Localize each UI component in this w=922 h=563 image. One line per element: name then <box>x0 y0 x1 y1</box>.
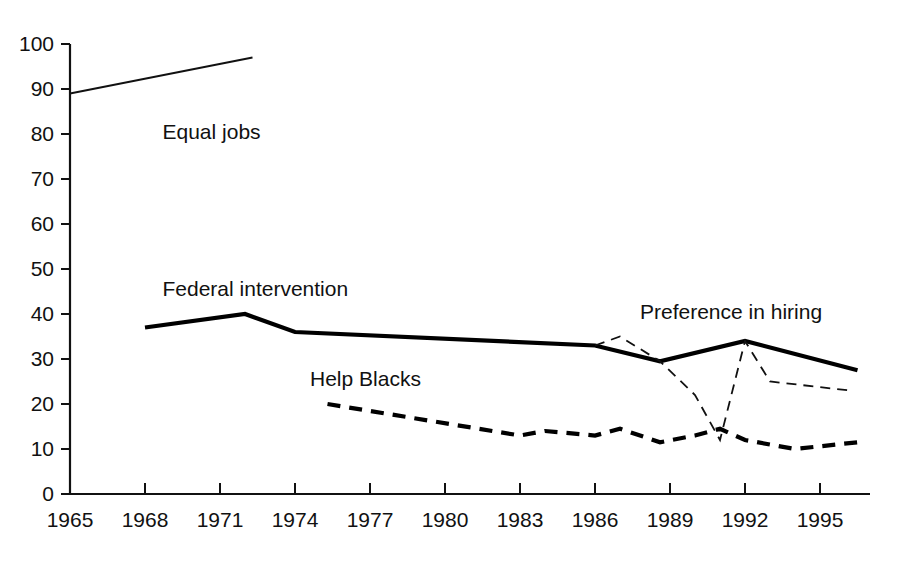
x-tick-label: 1995 <box>797 508 844 531</box>
chart-canvas: 0102030405060708090100 19651968197119741… <box>0 0 922 563</box>
y-tick-label: 50 <box>31 257 54 280</box>
series-label-federal-intervention: Federal intervention <box>163 277 349 300</box>
y-tick-label: 100 <box>19 32 54 55</box>
y-tick-label: 80 <box>31 122 54 145</box>
series-line-preference-in-hiring <box>595 337 850 441</box>
x-tick-label: 1983 <box>497 508 544 531</box>
x-axis: 1965196819711974197719801983198619891992… <box>47 483 870 531</box>
line-chart: 0102030405060708090100 19651968197119741… <box>0 0 922 563</box>
x-tick-label: 1986 <box>572 508 619 531</box>
series-line-help-blacks <box>328 404 858 449</box>
series-label-equal-jobs: Equal jobs <box>163 120 261 143</box>
x-tick-label: 1989 <box>647 508 694 531</box>
x-tick-label: 1965 <box>47 508 94 531</box>
x-tick-label: 1971 <box>197 508 244 531</box>
x-tick-label: 1977 <box>347 508 394 531</box>
y-tick-label: 70 <box>31 167 54 190</box>
x-tick-label: 1974 <box>272 508 319 531</box>
y-tick-label: 20 <box>31 392 54 415</box>
x-tick-label: 1968 <box>122 508 169 531</box>
y-tick-label: 60 <box>31 212 54 235</box>
y-tick-label: 40 <box>31 302 54 325</box>
x-tick-label: 1980 <box>422 508 469 531</box>
series-lines <box>70 58 858 450</box>
y-tick-label: 10 <box>31 437 54 460</box>
y-tick-label: 90 <box>31 77 54 100</box>
series-line-equal-jobs <box>70 58 253 94</box>
x-tick-label: 1992 <box>722 508 769 531</box>
series-label-preference-in-hiring: Preference in hiring <box>640 300 822 323</box>
y-axis: 0102030405060708090100 <box>19 32 70 505</box>
series-label-help-blacks: Help Blacks <box>310 367 421 390</box>
series-labels: Equal jobsFederal interventionHelp Black… <box>163 120 823 391</box>
y-tick-label: 0 <box>42 482 54 505</box>
y-tick-label: 30 <box>31 347 54 370</box>
